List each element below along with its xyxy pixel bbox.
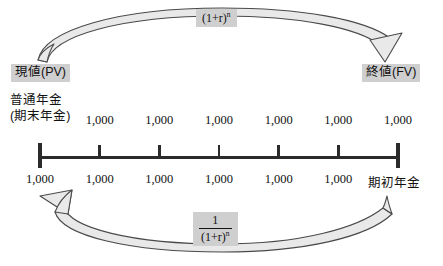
timeline-tick-5 [337,145,340,158]
discount-exponent: n [226,229,230,238]
compounding-factor-formula: (1+r)n [196,9,237,27]
cashflow-below-5: 1,000 [265,172,293,187]
discounting-factor-formula: 1 (1+r)n [193,212,238,246]
cashflow-above-4: 1,000 [265,113,293,128]
annuity-due-label: 期初年金 [368,176,420,191]
timeline-tick-2 [158,145,161,158]
cashflow-above-2: 1,000 [145,113,173,128]
cashflow-above-5: 1,000 [324,113,352,128]
compounding-exponent: n [227,10,231,19]
discount-base: (1+r) [201,230,226,244]
cashflow-below-4: 1,000 [205,172,233,187]
timeline-tick-4 [277,145,280,158]
timeline-tick-6 [396,143,400,168]
cashflow-below-6: 1,000 [324,172,352,187]
ordinary-annuity-label-line1: 普通年金 [10,93,62,108]
cashflow-below-3: 1,000 [145,172,173,187]
cashflow-above-3: 1,000 [205,113,233,128]
fraction-denominator: (1+r)n [199,230,232,244]
cashflow-below-2: 1,000 [86,172,114,187]
present-value-label: 現値(PV) [11,64,70,82]
ordinary-annuity-label-line2: (期末年金) [10,109,70,124]
cashflow-above-6: 1,000 [384,113,412,128]
timeline-tick-1 [98,145,101,158]
fraction-numerator: 1 [199,214,232,227]
cashflow-below-1: 1,000 [26,172,54,187]
cashflow-above-1: 1,000 [86,113,114,128]
annuity-diagram: (1+r)n 1 (1+r)n 現値(PV) 終値(FV) 普通年金 (期末年金… [0,0,443,266]
timeline-tick-3 [218,145,221,158]
discount-fraction: 1 (1+r)n [199,214,232,243]
future-value-label: 終値(FV) [362,64,420,82]
compounding-base: (1+r) [202,11,227,25]
timeline-tick-0 [38,143,42,168]
